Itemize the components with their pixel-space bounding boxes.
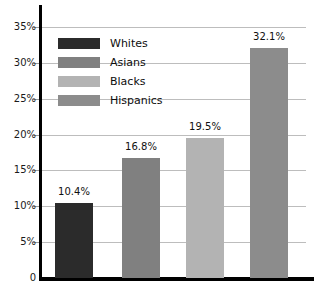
bar-value-label: 19.5%	[175, 122, 235, 132]
bar-chart: 05%10%15%20%25%30%35% 10.4%16.8%19.5%32.…	[0, 0, 317, 292]
legend-swatch-icon	[58, 76, 100, 87]
y-axis-tick-label: 5%	[20, 237, 36, 247]
bar-value-label: 32.1%	[239, 32, 299, 42]
legend-swatch-icon	[58, 38, 100, 49]
legend-item-label: Whites	[110, 38, 148, 49]
legend-item-hispanics[interactable]: Hispanics	[58, 91, 163, 110]
legend-item-label: Blacks	[110, 76, 146, 87]
bar-blacks[interactable]	[186, 138, 224, 278]
y-axis-tick-label: 0	[30, 273, 36, 283]
y-axis-tick-label: 10%	[14, 201, 36, 211]
legend-swatch-icon	[58, 95, 100, 106]
bar-value-label: 10.4%	[44, 187, 104, 197]
legend: WhitesAsiansBlacksHispanics	[58, 34, 163, 110]
y-axis-tick-label: 15%	[14, 165, 36, 175]
legend-item-label: Asians	[110, 57, 146, 68]
bar-whites[interactable]	[55, 203, 93, 278]
legend-item-blacks[interactable]: Blacks	[58, 72, 163, 91]
y-axis-tick-label: 30%	[14, 58, 36, 68]
legend-item-asians[interactable]: Asians	[58, 53, 163, 72]
bar-value-label: 16.8%	[111, 142, 171, 152]
legend-item-whites[interactable]: Whites	[58, 34, 163, 53]
bar-asians[interactable]	[122, 158, 160, 278]
legend-swatch-icon	[58, 57, 100, 68]
y-axis-line	[39, 5, 42, 280]
y-axis-tick-label: 35%	[14, 22, 36, 32]
gridline	[42, 27, 306, 28]
bar-hispanics[interactable]	[250, 48, 288, 278]
y-axis-tick-label: 20%	[14, 130, 36, 140]
y-axis-tick-label: 25%	[14, 94, 36, 104]
legend-item-label: Hispanics	[110, 95, 163, 106]
